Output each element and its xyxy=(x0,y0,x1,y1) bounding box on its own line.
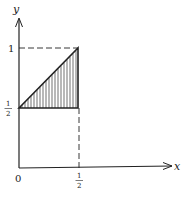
svg-text:2: 2 xyxy=(77,182,81,190)
x-tick-half: 1 2 xyxy=(76,172,84,190)
y-tick-half: 1 2 xyxy=(5,100,13,118)
svg-text:2: 2 xyxy=(6,110,10,118)
origin-label: 0 xyxy=(15,173,21,184)
region-hatching xyxy=(22,51,76,108)
region-diagram: y x 0 1 1 2 1 2 xyxy=(0,0,183,200)
y-axis-label: y xyxy=(12,3,20,16)
svg-text:1: 1 xyxy=(6,100,10,108)
svg-text:1: 1 xyxy=(77,172,81,180)
x-axis xyxy=(19,166,172,168)
x-axis-label: x xyxy=(174,160,181,173)
y-tick-1: 1 xyxy=(8,43,14,54)
shaded-triangle xyxy=(19,48,78,108)
